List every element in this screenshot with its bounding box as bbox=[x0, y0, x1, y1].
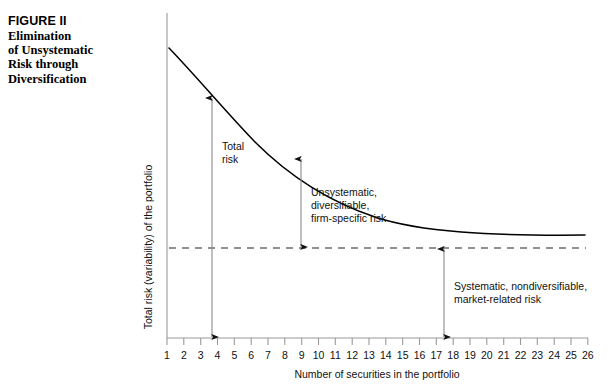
x-tick-label: 24 bbox=[548, 349, 560, 361]
x-tick-label: 5 bbox=[231, 349, 237, 361]
annotation-systematic-risk: Systematic, nondiversifiable, market-rel… bbox=[444, 249, 587, 337]
x-tick-label: 20 bbox=[481, 349, 493, 361]
x-axis-ticks bbox=[167, 338, 588, 345]
annotation-label: risk bbox=[222, 153, 239, 165]
annotation-unsystematic-risk: Unsystematic, diversifiable, firm-specif… bbox=[301, 159, 387, 247]
y-axis-title: Total risk (variability) of the portfoli… bbox=[142, 165, 154, 330]
x-tick-label: 21 bbox=[498, 349, 510, 361]
x-tick-label: 22 bbox=[515, 349, 527, 361]
x-tick-label: 7 bbox=[265, 349, 271, 361]
x-tick-label: 3 bbox=[198, 349, 204, 361]
x-tick-label: 2 bbox=[181, 349, 187, 361]
x-tick-label: 13 bbox=[363, 349, 375, 361]
x-tick-label: 17 bbox=[430, 349, 442, 361]
x-tick-label: 18 bbox=[447, 349, 459, 361]
annotation-label: Unsystematic, bbox=[311, 186, 377, 198]
annotation-total-risk: Total risk bbox=[212, 98, 244, 337]
x-tick-label: 1 bbox=[164, 349, 170, 361]
x-tick-label: 15 bbox=[397, 349, 409, 361]
x-tick-label: 9 bbox=[299, 349, 305, 361]
x-tick-label: 25 bbox=[565, 349, 577, 361]
x-tick-label: 8 bbox=[282, 349, 288, 361]
x-tick-label: 16 bbox=[414, 349, 426, 361]
x-axis-title: Number of securities in the portfolio bbox=[294, 368, 459, 380]
x-tick-label: 14 bbox=[380, 349, 392, 361]
annotation-label: diversifiable, bbox=[311, 199, 369, 211]
annotation-label: firm-specific risk bbox=[311, 212, 387, 224]
x-tick-label: 23 bbox=[531, 349, 543, 361]
x-tick-label: 12 bbox=[346, 349, 358, 361]
x-axis-tick-labels: 1 2 3 4 5 6 7 8 9 10 11 12 13 14 15 16 1… bbox=[164, 349, 594, 361]
annotation-label: market-related risk bbox=[454, 293, 542, 305]
x-tick-label: 26 bbox=[582, 349, 594, 361]
risk-diversification-chart: 1 2 3 4 5 6 7 8 9 10 11 12 13 14 15 16 1… bbox=[0, 0, 611, 392]
annotation-label: Total bbox=[222, 140, 244, 152]
x-tick-label: 4 bbox=[215, 349, 221, 361]
x-tick-label: 6 bbox=[248, 349, 254, 361]
x-tick-label: 11 bbox=[330, 349, 341, 361]
x-tick-label: 10 bbox=[313, 349, 325, 361]
x-tick-label: 19 bbox=[464, 349, 476, 361]
figure-container: FIGURE II Elimination of Unsystematic Ri… bbox=[0, 0, 611, 392]
annotation-label: Systematic, nondiversifiable, bbox=[454, 280, 587, 292]
